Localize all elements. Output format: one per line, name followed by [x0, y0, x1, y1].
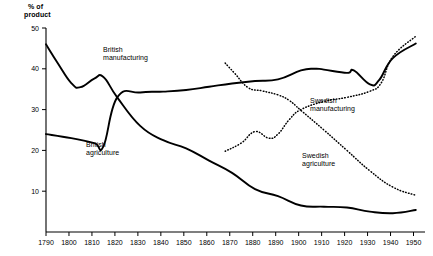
x-tick-label: 1910 — [314, 239, 330, 246]
chart-container: % of product 1020304050 1790180018101820… — [0, 0, 433, 256]
y-tick-label: 20 — [31, 147, 39, 154]
x-tick-label: 1860 — [199, 239, 215, 246]
x-tick-label: 1810 — [84, 239, 100, 246]
x-tick-label: 1900 — [291, 239, 307, 246]
series-label-swedish-manufacturing-line2: manufacturing — [310, 105, 355, 114]
x-tick-label: 1890 — [268, 239, 284, 246]
chart-plot-area: 1020304050 17901800181018201830184018501… — [0, 0, 433, 256]
x-tick-label: 1880 — [245, 239, 261, 246]
x-tick-label: 1940 — [383, 239, 399, 246]
x-axis-ticks: 1790180018101820183018401850186018701880… — [38, 232, 421, 246]
y-axis-ticks: 1020304050 — [31, 25, 46, 195]
x-tick-label: 1850 — [176, 239, 192, 246]
y-tick-label: 30 — [31, 106, 39, 113]
y-tick-label: 50 — [31, 25, 39, 32]
x-tick-label: 1840 — [153, 239, 169, 246]
x-tick-label: 1800 — [61, 239, 77, 246]
x-tick-label: 1950 — [406, 239, 422, 246]
y-tick-label: 40 — [31, 65, 39, 72]
y-tick-label: 10 — [31, 188, 39, 195]
series-path-swedish-agriculture — [225, 63, 416, 195]
series-label-british-agriculture-line2: agriculture — [86, 149, 119, 158]
x-tick-label: 1920 — [337, 239, 353, 246]
x-tick-label: 1830 — [130, 239, 146, 246]
x-tick-label: 1820 — [107, 239, 123, 246]
x-tick-label: 1930 — [360, 239, 376, 246]
series-path-swedish-manufacturing — [225, 36, 416, 151]
x-tick-label: 1870 — [222, 239, 238, 246]
series-label-swedish-agriculture-line2: agriculture — [302, 160, 335, 169]
data-series-group — [46, 36, 416, 213]
series-path-british-manufacturing — [46, 44, 416, 151]
series-label-british-manufacturing-line2: manufacturing — [103, 54, 148, 63]
x-tick-label: 1790 — [38, 239, 54, 246]
